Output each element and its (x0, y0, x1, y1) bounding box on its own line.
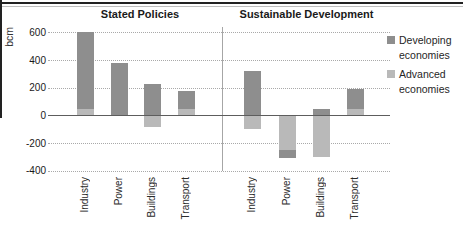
bar-segment-power-advanced (279, 116, 296, 151)
top-border-thin-line (0, 6, 463, 7)
panel-title-sustainable-development: Sustainable Development (223, 8, 390, 20)
bar-segment-transport-developing (178, 91, 195, 109)
category-label-transport: Transport (178, 177, 194, 219)
legend-item-developing: Developing economies (387, 33, 463, 63)
category-label-industry: Industry (244, 177, 260, 213)
bar-segment-power-developing (279, 150, 296, 158)
bar-segment-buildings-developing (144, 84, 161, 116)
legend-label: Advanced economies (399, 67, 461, 97)
y-tick-label-0: 0 (0, 109, 46, 122)
top-border-line (0, 2, 463, 4)
legend-item-advanced: Advanced economies (387, 67, 463, 97)
legend: Developing economiesAdvanced economies (387, 33, 463, 101)
y-tick-label--200: -200 (0, 137, 46, 150)
gridline-200 (48, 88, 390, 89)
bar-segment-industry-advanced (244, 116, 261, 130)
category-label-power: Power (111, 177, 127, 205)
legend-label: Developing economies (399, 33, 461, 63)
y-tick-label-200: 200 (0, 81, 46, 94)
bar-segment-industry-developing (77, 32, 94, 108)
y-tick-label-600: 600 (0, 26, 46, 39)
legend-swatch-icon (387, 70, 395, 78)
legend-swatch-icon (387, 36, 395, 44)
category-label-power: Power (279, 177, 295, 205)
gridline-400 (48, 60, 390, 61)
category-label-industry: Industry (77, 177, 93, 213)
bar-segment-transport-developing (347, 89, 364, 109)
y-tick-label-400: 400 (0, 54, 46, 67)
gridline--200 (48, 143, 390, 144)
gridline--400 (48, 171, 390, 172)
category-label-buildings: Buildings (313, 177, 329, 218)
bar-segment-industry-developing (244, 71, 261, 115)
bar-segment-buildings-advanced (313, 116, 330, 158)
chart-figure: Stated Policies Sustainable Development … (0, 0, 463, 230)
zero-axis-line (48, 115, 390, 117)
category-label-buildings: Buildings (144, 177, 160, 218)
panel-title-stated-policies: Stated Policies (50, 8, 230, 20)
bar-segment-buildings-advanced (144, 116, 161, 127)
gridline-600 (48, 32, 390, 33)
panel-divider-line (222, 27, 223, 171)
category-label-transport: Transport (347, 177, 363, 219)
bar-segment-power-developing (111, 63, 128, 116)
y-tick-label--400: -400 (0, 164, 46, 177)
